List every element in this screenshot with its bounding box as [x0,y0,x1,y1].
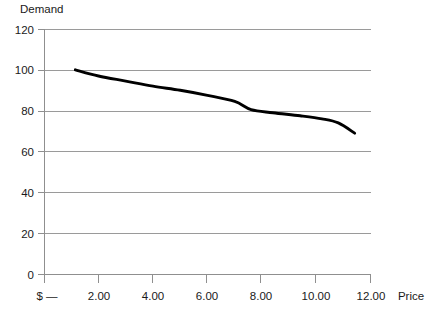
y-tick-label-40: 40 [21,187,34,199]
y-tick-label-120: 120 [15,24,34,36]
y-tick-label-20: 20 [21,228,34,240]
demand-series-line [75,70,354,133]
y-tick-label-100: 100 [15,64,34,76]
x-tick-label-8: 8.00 [250,290,272,302]
y-tick-label-60: 60 [21,146,34,158]
x-tick-label-2: 2.00 [88,290,110,302]
x-tick-labels: $ — 2.00 4.00 6.00 8.00 10.00 12.00 [36,290,385,302]
chart-canvas: Demand 120 100 80 60 [0,0,443,317]
x-tick-label-6: 6.00 [196,290,218,302]
x-tick-label-4: 4.00 [142,290,164,302]
y-tick-label-80: 80 [21,105,34,117]
x-tick-marks [45,274,371,283]
demand-curve-chart: Demand 120 100 80 60 [0,0,443,317]
x-tick-label-12: 12.00 [357,290,386,302]
gridlines [44,30,371,234]
y-tick-labels: 120 100 80 60 40 20 0 [15,24,34,281]
x-tick-label-dollar: $ — [36,290,58,302]
y-tick-label-0: 0 [28,269,34,281]
x-axis-title: Price [398,290,424,302]
y-tick-marks [38,30,44,275]
x-tick-label-10: 10.00 [302,290,331,302]
y-axis-title: Demand [20,3,63,15]
